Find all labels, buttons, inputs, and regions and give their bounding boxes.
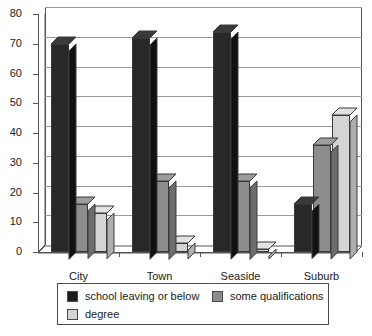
bar xyxy=(213,32,231,252)
bar-side-face xyxy=(150,38,157,252)
legend-swatch-icon xyxy=(67,291,78,302)
bar-side-face xyxy=(188,243,195,252)
legend: school leaving or below some qualificati… xyxy=(57,283,329,325)
bar-top-face xyxy=(332,108,350,115)
gridline xyxy=(45,67,362,68)
x-axis-label: Town xyxy=(119,270,200,282)
bar-top-face xyxy=(313,138,331,145)
x-axis-label: Suburb xyxy=(281,270,362,282)
bar-side-face xyxy=(312,204,319,252)
bar-side-face xyxy=(350,115,357,252)
y-tick-label: 50 xyxy=(0,97,22,108)
bar-front-face xyxy=(294,204,312,252)
legend-item: some qualifications xyxy=(212,290,324,302)
x-tick-mark xyxy=(119,252,120,257)
bar-side-face xyxy=(107,213,114,252)
bar-side-face xyxy=(331,145,338,252)
y-tick-label: 80 xyxy=(0,8,22,19)
bar-top-face xyxy=(213,25,231,32)
bar-top-face xyxy=(51,37,69,44)
y-tick-label: 10 xyxy=(0,216,22,227)
bar-side-face xyxy=(69,44,76,252)
bar-side-face xyxy=(169,181,176,252)
bar-front-face xyxy=(132,38,150,252)
x-tick-mark xyxy=(281,252,282,257)
bar xyxy=(294,204,312,252)
x-axis-line xyxy=(38,252,356,253)
gridline xyxy=(45,126,362,127)
y-tick-label: 40 xyxy=(0,127,22,138)
bar-chart: 01020304050607080 CityTownSeasideSuburb … xyxy=(0,0,372,336)
bar-front-face xyxy=(51,44,69,252)
gridline xyxy=(45,7,362,8)
bar-side-face xyxy=(88,204,95,252)
bar-top-face xyxy=(132,31,150,38)
legend-item: school leaving or below xyxy=(67,290,199,302)
legend-item-label: some qualifications xyxy=(230,290,324,302)
bar xyxy=(132,38,150,252)
x-tick-mark xyxy=(362,252,363,257)
bar xyxy=(51,44,69,252)
y-tick-label: 70 xyxy=(0,38,22,49)
bar-side-face xyxy=(231,32,238,252)
y-axis-line xyxy=(38,14,39,252)
y-tick-label: 20 xyxy=(0,187,22,198)
y-tick-label: 30 xyxy=(0,157,22,168)
bar-side-face xyxy=(250,181,257,252)
legend-item-label: degree xyxy=(85,308,119,320)
bar-side-face xyxy=(269,249,276,252)
y-tick-label: 60 xyxy=(0,68,22,79)
bar-front-face xyxy=(213,32,231,252)
bar-top-face xyxy=(294,197,312,204)
x-axis-label: Seaside xyxy=(200,270,281,282)
plot-area: 01020304050607080 CityTownSeasideSuburb xyxy=(38,14,362,252)
legend-swatch-icon xyxy=(67,309,78,320)
legend-swatch-icon xyxy=(212,291,223,302)
y-tick-label: 0 xyxy=(0,246,22,257)
legend-item-label: school leaving or below xyxy=(85,290,199,302)
x-axis-label: City xyxy=(38,270,119,282)
x-tick-mark xyxy=(200,252,201,257)
gridline xyxy=(45,96,362,97)
gridline xyxy=(45,37,362,38)
legend-item: degree xyxy=(67,308,119,320)
